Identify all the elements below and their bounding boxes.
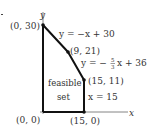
vertex-0-30: [41, 23, 45, 27]
vertex-15-11: [82, 78, 86, 82]
constraint-label-2-suffix: x + 36: [117, 58, 147, 68]
label-vertex-9-21: (9, 21): [70, 46, 100, 56]
constraint-label-3: x = 15: [88, 92, 118, 102]
constraint-label-2-numerator: 5: [111, 57, 115, 63]
constraint-label-2-prefix: y = −: [80, 58, 107, 68]
label-vertex-0-30: (0, 30): [10, 21, 40, 31]
feasible-set-diagram: y x (0, 30) (9, 21) (15, 11) (0, 0) (15,…: [0, 0, 154, 139]
x-axis-label: x: [129, 108, 134, 118]
region-label-line1: feasible: [48, 78, 82, 88]
region-label-line2: set: [57, 92, 70, 102]
constraint-label-2-denominator: 3: [111, 64, 115, 70]
label-vertex-15-11: (15, 11): [88, 76, 124, 86]
vertex-15-0: [82, 110, 86, 114]
stray-mark: [1, 14, 3, 15]
constraint-label-1: y = −x + 30: [58, 29, 115, 39]
label-vertex-0-0: (0, 0): [16, 115, 40, 125]
label-vertex-15-0: (15, 0): [70, 116, 100, 126]
y-axis-label: y: [39, 10, 46, 20]
